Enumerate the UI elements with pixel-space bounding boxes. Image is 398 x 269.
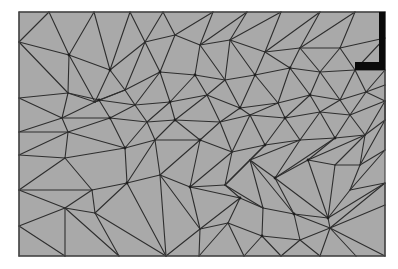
mesh-node bbox=[199, 139, 202, 142]
mesh-node bbox=[109, 117, 112, 120]
mesh-node bbox=[264, 144, 267, 147]
mesh-node bbox=[194, 74, 197, 77]
mesh-node bbox=[174, 119, 177, 122]
mesh-node bbox=[289, 67, 292, 70]
mesh-node bbox=[189, 186, 192, 189]
mesh-node bbox=[98, 99, 101, 102]
mesh-figure bbox=[0, 0, 398, 269]
mesh-node bbox=[254, 74, 257, 77]
mesh-node bbox=[68, 54, 71, 57]
mesh-node bbox=[327, 217, 330, 220]
mesh-node bbox=[309, 94, 312, 97]
mesh-node bbox=[124, 147, 127, 150]
mesh-node bbox=[169, 101, 172, 104]
mesh-node bbox=[284, 117, 287, 120]
bracket-vertical-bar bbox=[379, 12, 385, 70]
mesh-node bbox=[126, 182, 129, 185]
mesh-node bbox=[159, 71, 162, 74]
mesh-node bbox=[239, 197, 242, 200]
mesh-node bbox=[239, 107, 242, 110]
bracket-horizontal-bar bbox=[355, 62, 385, 70]
mesh-node bbox=[261, 235, 264, 238]
mesh-node bbox=[334, 137, 337, 140]
mesh-node bbox=[109, 69, 112, 72]
mesh-node bbox=[293, 213, 296, 216]
mesh-node bbox=[274, 177, 277, 180]
mesh-node bbox=[307, 159, 310, 162]
fem-mesh-diagram bbox=[0, 0, 398, 269]
